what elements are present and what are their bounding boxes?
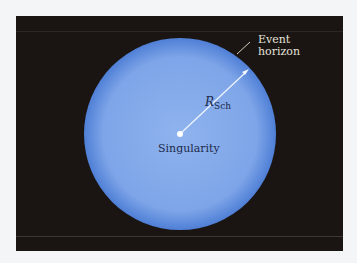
leader-line	[237, 42, 250, 54]
schwarzschild-radius-label: RSch	[205, 96, 231, 112]
event-horizon-label: Event horizon	[258, 34, 300, 58]
black-hole-diagram	[0, 0, 357, 263]
singularity-label: Singularity	[158, 143, 220, 155]
singularity-point	[177, 131, 183, 137]
